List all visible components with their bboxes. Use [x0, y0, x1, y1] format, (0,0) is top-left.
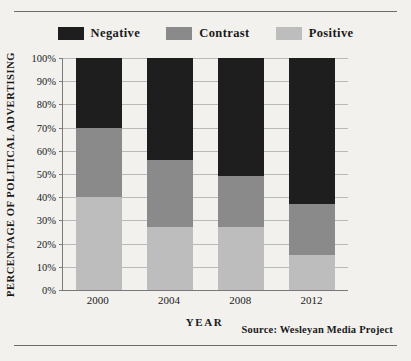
bar-segment-positive — [147, 227, 193, 290]
bar-segment-negative — [218, 58, 264, 176]
bar-segment-negative — [76, 58, 122, 128]
y-axis-title-text: PERCENTAGE OF POLITICAL ADVERTISING — [5, 52, 16, 297]
y-axis-tick-label: 20% — [37, 238, 56, 249]
top-divider-rule — [14, 11, 397, 12]
y-axis-tick-label: 50% — [37, 169, 56, 180]
stacked-bar-chart: Negative Contrast Positive PERCENTAGE OF… — [0, 16, 411, 346]
y-axis-tick-label: 90% — [37, 76, 56, 87]
bar-2004 — [147, 58, 193, 290]
bar-segment-contrast — [147, 160, 193, 227]
y-axis-tick-label: 0% — [42, 285, 56, 296]
y-axis-title: PERCENTAGE OF POLITICAL ADVERTISING — [2, 58, 18, 290]
bar-segment-positive — [218, 227, 264, 290]
legend-swatch-positive — [276, 27, 302, 40]
chart-legend: Negative Contrast Positive — [0, 26, 411, 41]
legend-item-positive: Positive — [276, 26, 354, 41]
legend-label-contrast: Contrast — [199, 26, 249, 41]
y-axis-ticks: 0%10%20%30%40%50%60%70%80%90%100% — [18, 58, 60, 290]
y-axis-tick-label: 40% — [37, 192, 56, 203]
bar-segment-contrast — [76, 128, 122, 198]
y-axis-tick-mark — [59, 290, 63, 291]
bar-2000 — [76, 58, 122, 290]
legend-swatch-negative — [58, 27, 84, 40]
bar-segment-contrast — [218, 176, 264, 227]
plot-area — [62, 58, 348, 291]
legend-label-negative: Negative — [91, 26, 141, 41]
legend-label-positive: Positive — [309, 26, 354, 41]
bar-segment-negative — [289, 58, 335, 204]
y-axis-tick-label: 70% — [37, 122, 56, 133]
x-axis-tick-label: 2008 — [217, 294, 263, 306]
bar-segment-positive — [76, 197, 122, 290]
bar-segment-positive — [289, 255, 335, 290]
legend-swatch-contrast — [166, 27, 192, 40]
figure-page: Negative Contrast Positive PERCENTAGE OF… — [0, 0, 411, 361]
x-axis-tick-label: 2000 — [75, 294, 121, 306]
plot-area-wrapper: PERCENTAGE OF POLITICAL ADVERTISING 0%10… — [0, 58, 411, 318]
bar-2008 — [218, 58, 264, 290]
legend-item-negative: Negative — [58, 26, 141, 41]
y-axis-tick-label: 60% — [37, 145, 56, 156]
x-axis-tick-label: 2004 — [146, 294, 192, 306]
y-axis-tick-label: 80% — [37, 99, 56, 110]
bar-group — [63, 58, 348, 290]
source-note: Source: Wesleyan Media Project — [241, 324, 393, 335]
bar-2012 — [289, 58, 335, 290]
y-axis-tick-label: 30% — [37, 215, 56, 226]
legend-item-contrast: Contrast — [166, 26, 249, 41]
bar-segment-contrast — [289, 204, 335, 255]
x-axis-tick-labels: 2000200420082012 — [62, 294, 347, 306]
bar-segment-negative — [147, 58, 193, 160]
x-axis-tick-label: 2012 — [288, 294, 334, 306]
y-axis-tick-label: 100% — [32, 53, 57, 64]
y-axis-tick-label: 10% — [37, 261, 56, 272]
